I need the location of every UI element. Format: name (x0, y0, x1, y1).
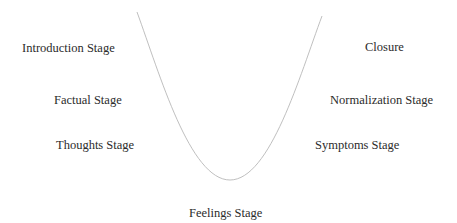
label-factual-stage: Factual Stage (54, 94, 122, 107)
label-symptoms-stage: Symptoms Stage (315, 139, 399, 152)
label-feelings-stage: Feelings Stage (189, 207, 262, 220)
u-curve-path (137, 12, 322, 180)
label-thoughts-stage: Thoughts Stage (56, 139, 134, 152)
label-closure: Closure (365, 41, 404, 54)
label-normalization-stage: Normalization Stage (330, 94, 433, 107)
label-introduction-stage: Introduction Stage (22, 42, 115, 55)
u-curve (0, 0, 457, 223)
